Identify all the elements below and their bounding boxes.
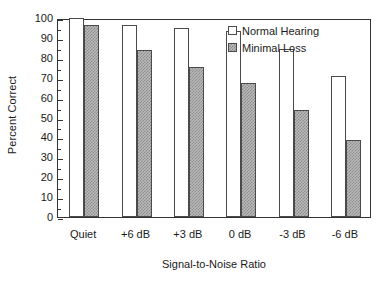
y-tick-mark-minor bbox=[58, 189, 61, 190]
y-tick-mark bbox=[58, 219, 63, 220]
y-tick-mark bbox=[58, 159, 63, 160]
bar-minimal-loss bbox=[189, 67, 204, 217]
bar-normal-hearing bbox=[69, 18, 84, 217]
bar-normal-hearing bbox=[174, 28, 189, 217]
bar-minimal-loss bbox=[241, 83, 256, 217]
y-axis-title: Percent Correct bbox=[6, 15, 20, 215]
chart-legend: Normal HearingMinimal Loss bbox=[228, 22, 366, 56]
y-tick-mark bbox=[58, 20, 63, 21]
y-tick-label: 10 bbox=[27, 192, 53, 203]
y-tick-label: 20 bbox=[27, 172, 53, 183]
x-tick-label: -6 dB bbox=[315, 228, 375, 240]
y-tick-mark-minor bbox=[58, 129, 61, 130]
legend-swatch-icon bbox=[228, 26, 237, 35]
legend-item: Minimal Loss bbox=[228, 39, 366, 56]
x-tick-label: +3 dB bbox=[158, 228, 218, 240]
bar-normal-hearing bbox=[331, 76, 346, 217]
y-axis-tick-labels: 0102030405060708090100 bbox=[25, 0, 53, 285]
x-tick-label: Quiet bbox=[53, 228, 113, 240]
y-tick-mark-minor bbox=[58, 149, 61, 150]
y-tick-label: 50 bbox=[27, 113, 53, 124]
y-tick-mark-minor bbox=[58, 70, 61, 71]
y-tick-label: 0 bbox=[27, 212, 53, 223]
x-tick-label: 0 dB bbox=[210, 228, 270, 240]
y-tick-label: 80 bbox=[27, 53, 53, 64]
y-tick-mark-minor bbox=[58, 90, 61, 91]
y-tick-label: 70 bbox=[27, 73, 53, 84]
x-tick-label: -3 dB bbox=[263, 228, 323, 240]
y-tick-label: 90 bbox=[27, 33, 53, 44]
bar-minimal-loss bbox=[84, 25, 99, 217]
bar-minimal-loss bbox=[137, 50, 152, 217]
legend-item: Normal Hearing bbox=[228, 22, 366, 39]
y-tick-mark-minor bbox=[58, 209, 61, 210]
y-tick-label: 30 bbox=[27, 152, 53, 163]
y-tick-mark-minor bbox=[58, 169, 61, 170]
y-tick-label: 40 bbox=[27, 132, 53, 143]
x-tick-label: +6 dB bbox=[106, 228, 166, 240]
y-tick-mark bbox=[58, 179, 63, 180]
bar-normal-hearing bbox=[122, 25, 137, 217]
y-tick-label: 60 bbox=[27, 93, 53, 104]
y-tick-mark bbox=[58, 139, 63, 140]
bar-normal-hearing bbox=[226, 31, 241, 217]
bar-minimal-loss bbox=[294, 110, 309, 217]
y-tick-label: 100 bbox=[27, 13, 53, 24]
y-tick-mark bbox=[58, 80, 63, 81]
y-tick-mark-minor bbox=[58, 110, 61, 111]
bar-minimal-loss bbox=[346, 140, 361, 217]
legend-swatch-icon bbox=[228, 43, 237, 52]
legend-label: Normal Hearing bbox=[242, 25, 319, 37]
y-tick-mark bbox=[58, 100, 63, 101]
y-tick-mark-minor bbox=[58, 50, 61, 51]
y-tick-mark-minor bbox=[58, 30, 61, 31]
x-axis-title: Signal-to-Noise Ratio bbox=[57, 258, 371, 270]
y-tick-mark bbox=[58, 199, 63, 200]
bar-normal-hearing bbox=[279, 49, 294, 217]
bar-chart-figure: Percent Correct 0102030405060708090100 Q… bbox=[0, 0, 377, 285]
y-tick-mark bbox=[58, 60, 63, 61]
legend-label: Minimal Loss bbox=[242, 42, 306, 54]
y-tick-mark bbox=[58, 40, 63, 41]
y-tick-mark bbox=[58, 120, 63, 121]
